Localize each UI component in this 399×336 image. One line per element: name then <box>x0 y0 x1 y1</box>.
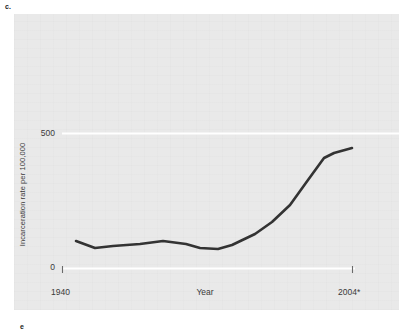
x-tick-label-2004: 2004* <box>338 287 360 297</box>
line-chart-plot <box>0 0 399 336</box>
figure-part-label-e: e <box>20 323 24 330</box>
incarceration-rate-line <box>76 148 352 249</box>
x-tick-label-1940: 1940 <box>51 287 70 297</box>
x-axis-title: Year <box>130 287 280 297</box>
y-axis-title: Incarceration rate per 100,000 <box>18 115 27 275</box>
y-tick-label-500: 500 <box>33 128 55 138</box>
y-tick-label-0: 0 <box>33 262 55 272</box>
